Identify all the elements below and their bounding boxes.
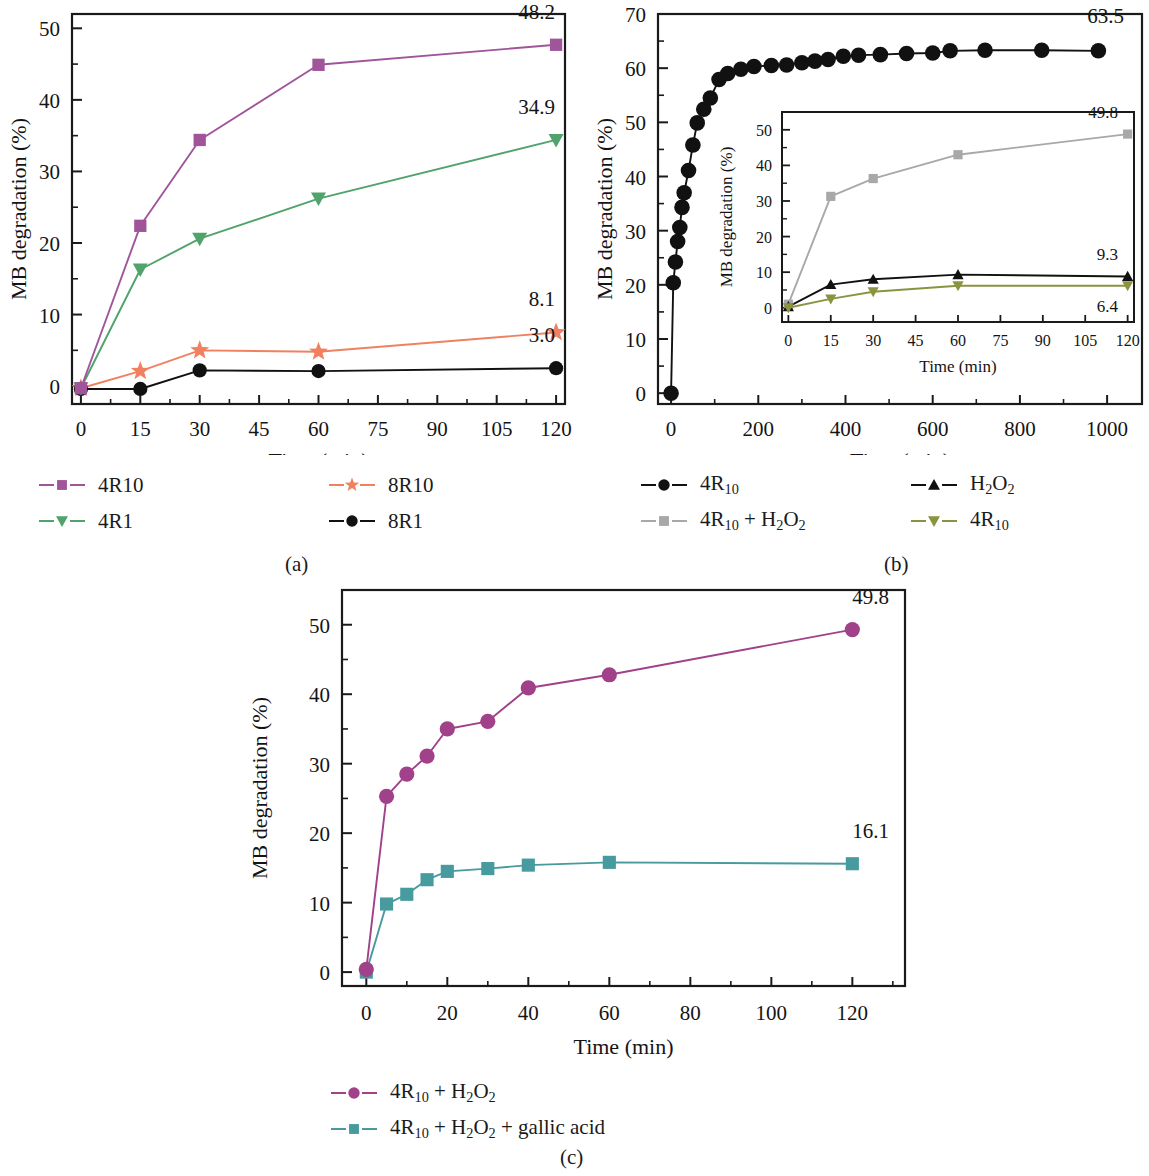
panel-label-b: (b) <box>884 552 909 577</box>
legend-marker-circle <box>330 1083 378 1103</box>
svg-text:50: 50 <box>39 17 60 41</box>
legend-item[interactable]: 4R10 <box>910 506 1015 536</box>
legend-item[interactable]: H2O2 <box>910 470 1015 500</box>
svg-text:45: 45 <box>249 417 270 441</box>
svg-text:60: 60 <box>308 417 329 441</box>
svg-text:0: 0 <box>320 961 331 985</box>
svg-text:9.3: 9.3 <box>1097 245 1118 264</box>
svg-text:20: 20 <box>625 274 646 298</box>
svg-text:90: 90 <box>427 417 448 441</box>
legend-label: 4R10 + H2O2 + gallic acid <box>390 1117 605 1140</box>
svg-text:20: 20 <box>309 822 330 846</box>
svg-text:120: 120 <box>540 417 572 441</box>
legend-item[interactable]: 8R1 <box>328 506 434 536</box>
svg-text:0: 0 <box>764 300 772 317</box>
panel-c-chart: 02040608010012001020304050Time (min)MB d… <box>205 578 925 1063</box>
svg-text:48.2: 48.2 <box>518 0 555 24</box>
legend-marker-square <box>38 475 86 495</box>
svg-text:200: 200 <box>743 417 775 441</box>
legend-item[interactable]: 4R10 + H2O2 + gallic acid <box>330 1114 890 1144</box>
svg-text:15: 15 <box>130 417 151 441</box>
svg-text:10: 10 <box>309 892 330 916</box>
legend-label: H2O2 <box>970 473 1015 496</box>
svg-text:40: 40 <box>39 89 60 113</box>
svg-text:MB degradation (%): MB degradation (%) <box>247 697 272 879</box>
svg-text:Time (min): Time (min) <box>573 1034 673 1059</box>
svg-text:60: 60 <box>950 332 966 349</box>
panel-label-a: (a) <box>285 552 308 577</box>
legend-label: 4R10 <box>98 475 144 496</box>
svg-text:Time (min): Time (min) <box>850 448 950 455</box>
svg-text:40: 40 <box>756 157 772 174</box>
svg-text:0: 0 <box>784 332 792 349</box>
svg-text:30: 30 <box>625 220 646 244</box>
svg-text:50: 50 <box>309 614 330 638</box>
svg-text:40: 40 <box>625 166 646 190</box>
svg-text:0: 0 <box>666 417 677 441</box>
legend-marker-star <box>328 475 376 495</box>
svg-text:6.4: 6.4 <box>1097 297 1119 316</box>
legend-label: 4R10 <box>700 473 739 496</box>
svg-text:105: 105 <box>1073 332 1097 349</box>
svg-text:8.1: 8.1 <box>529 287 555 311</box>
svg-text:10: 10 <box>756 264 772 281</box>
svg-text:16.1: 16.1 <box>852 819 889 843</box>
panel-a-svg: 015304560759010512001020304050Time (min)… <box>0 0 580 455</box>
legend-marker-triangle-down <box>910 511 958 531</box>
svg-text:90: 90 <box>1035 332 1051 349</box>
legend-marker-square <box>640 511 688 531</box>
svg-text:1000: 1000 <box>1086 417 1128 441</box>
svg-text:0: 0 <box>361 1001 372 1025</box>
svg-text:34.9: 34.9 <box>518 95 555 119</box>
svg-text:40: 40 <box>518 1001 539 1025</box>
svg-text:120: 120 <box>1116 332 1140 349</box>
legend-label: 8R10 <box>388 475 434 496</box>
legend-marker-triangle-down <box>38 511 86 531</box>
legend-marker-triangle-up <box>910 475 958 495</box>
svg-text:MB degradation (%): MB degradation (%) <box>717 147 736 288</box>
legend-item[interactable]: 8R10 <box>328 470 434 500</box>
svg-text:45: 45 <box>908 332 924 349</box>
svg-text:30: 30 <box>756 193 772 210</box>
legend-label: 4R10 <box>970 509 1009 532</box>
svg-text:75: 75 <box>992 332 1008 349</box>
svg-text:0: 0 <box>636 382 647 406</box>
svg-text:30: 30 <box>189 417 210 441</box>
panel-label-c: (c) <box>560 1145 583 1170</box>
panel-b-svg: 02004006008001000010203040506070Time (mi… <box>586 0 1149 455</box>
legend-label: 4R10 + H2O2 <box>390 1081 496 1104</box>
svg-text:0: 0 <box>50 375 61 399</box>
svg-text:49.8: 49.8 <box>852 585 889 609</box>
legend-marker-square <box>330 1119 378 1139</box>
svg-text:120: 120 <box>837 1001 869 1025</box>
svg-text:60: 60 <box>625 57 646 81</box>
svg-text:MB degradation (%): MB degradation (%) <box>6 118 31 300</box>
svg-text:Time (min): Time (min) <box>919 357 996 376</box>
svg-text:10: 10 <box>39 304 60 328</box>
legend-item[interactable]: 4R10 <box>38 470 328 500</box>
svg-text:50: 50 <box>625 111 646 135</box>
svg-text:400: 400 <box>830 417 862 441</box>
svg-text:63.5: 63.5 <box>1087 4 1124 28</box>
svg-text:105: 105 <box>481 417 513 441</box>
legend-item[interactable]: 4R10 + H2O2 <box>640 506 910 536</box>
legend-item[interactable]: 4R10 + H2O2 <box>330 1078 890 1108</box>
svg-text:30: 30 <box>309 753 330 777</box>
legend-label: 8R1 <box>388 511 423 532</box>
svg-text:80: 80 <box>680 1001 701 1025</box>
panel-c-legend: 4R10 + H2O2 4R10 + H2O2 + gallic acid <box>330 1078 890 1150</box>
svg-text:30: 30 <box>865 332 881 349</box>
svg-text:100: 100 <box>756 1001 788 1025</box>
svg-text:15: 15 <box>823 332 839 349</box>
panel-a-chart: 015304560759010512001020304050Time (min)… <box>0 0 580 455</box>
legend-label: 4R10 + H2O2 <box>700 509 806 532</box>
panel-c-svg: 02040608010012001020304050Time (min)MB d… <box>205 578 925 1063</box>
legend-marker-circle <box>328 511 376 531</box>
legend-item[interactable]: 4R1 <box>38 506 328 536</box>
panel-b-chart: 02004006008001000010203040506070Time (mi… <box>586 0 1149 455</box>
legend-item[interactable]: 4R10 <box>640 470 910 500</box>
svg-text:30: 30 <box>39 160 60 184</box>
panel-b-legend: 4R10 4R10 + H2O2 H2O2 4R10 <box>640 470 1149 542</box>
legend-marker-circle <box>640 475 688 495</box>
svg-text:75: 75 <box>367 417 388 441</box>
